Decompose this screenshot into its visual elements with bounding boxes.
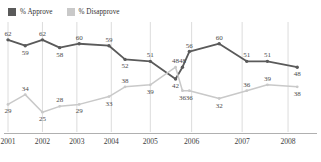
data-point-label: 38: [294, 90, 302, 98]
data-point-label: 51: [147, 51, 155, 59]
data-point-label: 59: [106, 36, 114, 44]
data-point-label: 62: [5, 30, 13, 38]
data-point-label: 48: [294, 70, 302, 78]
data-point: [188, 89, 191, 92]
data-point-label: 28: [56, 96, 64, 104]
data-point-label: 25: [39, 115, 47, 123]
x-tick-label: 2007: [235, 137, 250, 146]
data-point-label: 36: [186, 94, 194, 102]
gridlines: [8, 22, 288, 132]
x-axis-labels: 20012002200320042005200620072008: [0, 137, 321, 153]
x-tick-label: 2001: [0, 137, 15, 146]
chart-svg: 6259625860595251424856605151482934252829…: [0, 22, 321, 132]
data-point: [58, 105, 61, 108]
data-point: [7, 103, 10, 106]
data-point: [188, 50, 191, 53]
data-point: [181, 89, 184, 92]
data-point-label: 32: [216, 102, 224, 110]
data-point: [245, 60, 248, 63]
data-point: [181, 66, 184, 69]
x-tick-label: 2005: [143, 137, 158, 146]
legend-label-disapprove: % Disapprove: [79, 8, 120, 16]
plot-area: 6259625860595251424856605151482934252829…: [0, 22, 321, 132]
data-point: [108, 95, 111, 98]
legend-item-disapprove: % Disapprove: [67, 8, 120, 16]
data-point-label: 60: [216, 34, 224, 42]
data-point: [24, 93, 27, 96]
x-axis-line: [4, 133, 317, 134]
data-point: [41, 38, 44, 41]
x-tick-label: 2006: [184, 137, 199, 146]
data-point-label: 52: [122, 62, 130, 70]
data-point: [218, 97, 221, 100]
data-point-label: 38: [122, 77, 130, 85]
data-point-label: 51: [243, 51, 251, 59]
data-point-label: 59: [22, 49, 30, 57]
x-tick-label: 2002: [35, 137, 50, 146]
data-point: [58, 46, 61, 49]
data-point-label: 62: [39, 30, 47, 38]
data-point: [149, 83, 152, 86]
x-tick-label: 2003: [69, 137, 84, 146]
data-point-label: 56: [186, 42, 194, 50]
data-point: [296, 66, 299, 69]
x-tick-label: 2004: [104, 137, 119, 146]
x-tick-label: 2008: [280, 137, 295, 146]
data-point-label: 39: [147, 88, 155, 96]
data-point: [124, 85, 127, 88]
data-point: [266, 60, 269, 63]
legend-swatch-disapprove-icon: [67, 8, 75, 16]
data-point-label: 48: [172, 57, 180, 65]
data-point: [107, 44, 110, 47]
data-point: [296, 85, 299, 88]
chart-legend: % Approve % Disapprove: [8, 6, 119, 18]
series-layer: [6, 38, 299, 113]
data-point: [78, 103, 81, 106]
data-point: [24, 44, 27, 47]
data-point-label: 29: [76, 107, 84, 115]
data-point: [266, 83, 269, 86]
data-point: [217, 42, 220, 45]
data-point-label: 51: [264, 51, 272, 59]
data-point: [41, 111, 44, 114]
legend-swatch-approve-icon: [8, 8, 16, 16]
data-point: [174, 66, 177, 69]
data-point: [123, 58, 126, 61]
data-point-label: 48: [179, 57, 187, 65]
legend-item-approve: % Approve: [8, 8, 53, 16]
data-point-label: 34: [22, 85, 30, 93]
data-point-label: 29: [5, 107, 13, 115]
data-point-label: 58: [56, 51, 64, 59]
data-point-label: 42: [172, 82, 180, 90]
data-point: [245, 89, 248, 92]
data-point-label: 36: [243, 81, 251, 89]
series-line-approve: [8, 40, 297, 79]
data-point-label: 39: [264, 75, 272, 83]
data-point-label: 60: [76, 34, 84, 42]
data-point: [149, 60, 152, 63]
data-point-label: 33: [106, 100, 114, 108]
approval-rating-line-chart: % Approve % Disapprove 62596258605952514…: [0, 0, 321, 162]
data-point: [77, 42, 80, 45]
data-point: [174, 77, 177, 80]
data-point: [6, 38, 9, 41]
legend-label-approve: % Approve: [20, 8, 53, 16]
